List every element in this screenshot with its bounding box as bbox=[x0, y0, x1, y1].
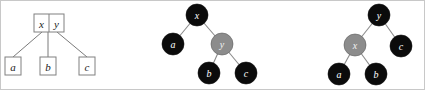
node-r-a-label: a bbox=[337, 69, 342, 80]
node-m-x-label: x bbox=[194, 10, 200, 21]
node-r-b[interactable]: b bbox=[365, 63, 387, 85]
panel-binary-tree-x-root: x a y b c bbox=[141, 1, 286, 90]
leaf-box-c[interactable]: c bbox=[79, 57, 95, 75]
leaf-box-b[interactable]: b bbox=[40, 57, 56, 75]
leaf-box-a[interactable]: a bbox=[5, 57, 21, 75]
box-diagram-svg: x y a b c bbox=[1, 1, 141, 90]
node-m-c[interactable]: c bbox=[235, 62, 257, 84]
panel-binary-tree-y-root: y x c a b bbox=[286, 1, 425, 90]
node-m-y-label: y bbox=[219, 39, 225, 50]
node-r-y-label: y bbox=[376, 10, 382, 21]
panel-box-diagram: x y a b c bbox=[1, 1, 141, 90]
leaf-box-a-label: a bbox=[10, 61, 16, 73]
node-m-b[interactable]: b bbox=[198, 62, 220, 84]
leaf-box-c-label: c bbox=[85, 61, 90, 73]
node-r-c[interactable]: c bbox=[390, 35, 412, 57]
node-r-x[interactable]: x bbox=[344, 34, 366, 56]
root-box-key-x: x bbox=[38, 18, 44, 30]
node-m-y[interactable]: y bbox=[211, 33, 233, 55]
node-m-b-label: b bbox=[207, 68, 212, 79]
binary-tree-x-svg: x a y b c bbox=[141, 1, 286, 90]
leaf-box-b-label: b bbox=[45, 61, 51, 73]
node-r-x-label: x bbox=[352, 40, 358, 51]
node-m-a[interactable]: a bbox=[162, 33, 184, 55]
node-m-a-label: a bbox=[171, 39, 176, 50]
root-box[interactable]: x y bbox=[34, 14, 64, 32]
node-r-a[interactable]: a bbox=[328, 63, 350, 85]
node-m-x[interactable]: x bbox=[186, 4, 208, 26]
root-box-key-y: y bbox=[53, 18, 59, 30]
box-edge-to-a bbox=[13, 32, 42, 57]
node-r-b-label: b bbox=[374, 69, 379, 80]
box-edge-to-c bbox=[57, 32, 87, 57]
box-edges bbox=[13, 32, 87, 57]
node-r-y[interactable]: y bbox=[368, 4, 390, 26]
figure-container: x y a b c bbox=[0, 0, 425, 90]
binary-tree-y-svg: y x c a b bbox=[286, 1, 425, 90]
node-m-c-label: c bbox=[244, 68, 249, 79]
node-r-c-label: c bbox=[399, 41, 404, 52]
